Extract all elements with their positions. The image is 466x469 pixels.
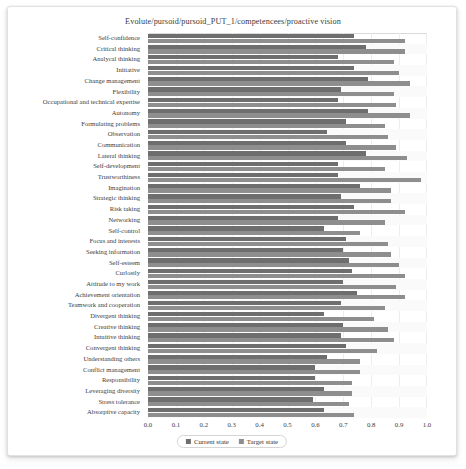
bar-row bbox=[148, 65, 427, 76]
y-axis-label: Convergent thinking bbox=[86, 345, 140, 352]
x-tick-label: 0.6 bbox=[311, 421, 320, 428]
bar-current-state bbox=[148, 109, 368, 113]
bar-target-state bbox=[148, 306, 385, 310]
bar-current-state bbox=[148, 162, 338, 166]
x-tick-label: 0.5 bbox=[283, 421, 292, 428]
y-axis-label: Change management bbox=[85, 78, 140, 85]
bar-target-state bbox=[148, 60, 394, 64]
y-axis-label: Divergent thinking bbox=[90, 313, 140, 320]
bar-target-state bbox=[148, 178, 421, 182]
bar-row bbox=[148, 44, 427, 55]
x-tick-label: 0.8 bbox=[367, 421, 376, 428]
bar-current-state bbox=[148, 66, 354, 70]
legend-item-current-state[interactable]: Current state bbox=[186, 438, 229, 445]
bar-row bbox=[148, 375, 427, 386]
bar-current-state bbox=[148, 141, 346, 145]
bar-row bbox=[148, 76, 427, 87]
bar-current-state bbox=[148, 205, 354, 209]
bar-target-state bbox=[148, 391, 352, 395]
y-axis-label: Attitude to my work bbox=[86, 281, 140, 288]
x-tick-label: 0.2 bbox=[200, 421, 209, 428]
bar-target-state bbox=[148, 327, 388, 331]
bar-current-state bbox=[148, 130, 327, 134]
bar-target-state bbox=[148, 349, 377, 353]
bar-current-state bbox=[148, 55, 338, 59]
x-axis: 0.00.10.20.30.40.50.60.70.80.91.0 bbox=[148, 418, 427, 434]
bar-rows bbox=[148, 33, 427, 418]
bar-target-state bbox=[148, 359, 360, 363]
bar-target-state bbox=[148, 220, 385, 224]
bar-current-state bbox=[148, 397, 313, 401]
bar-target-state bbox=[148, 103, 396, 107]
bar-target-state bbox=[148, 188, 391, 192]
bar-row bbox=[148, 343, 427, 354]
bar-row bbox=[148, 247, 427, 258]
bar-target-state bbox=[148, 145, 396, 149]
bar-current-state bbox=[148, 87, 341, 91]
bar-current-state bbox=[148, 184, 360, 188]
bar-row bbox=[148, 290, 427, 301]
bar-current-state bbox=[148, 45, 366, 49]
chart-title: Evolute/pursoid/pursoid_PUT_1/competence… bbox=[8, 17, 458, 26]
y-axis-label: Formulating problems bbox=[81, 121, 140, 128]
bar-row bbox=[148, 332, 427, 343]
bar-row bbox=[148, 268, 427, 279]
x-tick-label: 0.7 bbox=[339, 421, 348, 428]
bar-target-state bbox=[148, 402, 349, 406]
bar-row bbox=[148, 300, 427, 311]
x-tick-label: 1.0 bbox=[423, 421, 432, 428]
bar-target-state bbox=[148, 370, 360, 374]
x-tick-label: 0.4 bbox=[255, 421, 264, 428]
bar-current-state bbox=[148, 194, 341, 198]
bar-current-state bbox=[148, 376, 315, 380]
bar-current-state bbox=[148, 280, 343, 284]
chart-card: Evolute/pursoid/pursoid_PUT_1/competence… bbox=[7, 6, 457, 456]
bar-current-state bbox=[148, 312, 324, 316]
x-tick-label: 0.1 bbox=[172, 421, 181, 428]
y-axis-label: Risk taking bbox=[110, 206, 140, 213]
x-tick-label: 0.0 bbox=[144, 421, 153, 428]
y-axis-label: Focus and interests bbox=[89, 238, 140, 245]
bar-current-state bbox=[148, 258, 349, 262]
y-axis-label: Networking bbox=[109, 217, 141, 224]
bar-target-state bbox=[148, 135, 388, 139]
bar-row bbox=[148, 365, 427, 376]
y-axis-label: Understanding others bbox=[83, 356, 140, 363]
bar-row bbox=[148, 183, 427, 194]
bar-target-state bbox=[148, 71, 399, 75]
bar-target-state bbox=[148, 156, 407, 160]
bar-target-state bbox=[148, 285, 396, 289]
legend-label-target-state: Target state bbox=[247, 438, 278, 445]
y-axis-label: Creative thinking bbox=[94, 324, 140, 331]
bar-row bbox=[148, 279, 427, 290]
chart-legend[interactable]: Current state Target state bbox=[177, 435, 287, 448]
bar-target-state bbox=[148, 39, 405, 43]
y-axis-label: Occupational and technical expertise bbox=[43, 99, 140, 106]
bar-row bbox=[148, 161, 427, 172]
y-axis-label: Responsibility bbox=[102, 377, 140, 384]
legend-item-target-state[interactable]: Target state bbox=[239, 438, 278, 445]
bar-row bbox=[148, 129, 427, 140]
bar-current-state bbox=[148, 365, 315, 369]
y-axis-label: Initiative bbox=[116, 67, 140, 74]
plot-area bbox=[148, 33, 427, 418]
bar-target-state bbox=[148, 124, 385, 128]
bar-row bbox=[148, 151, 427, 162]
bar-row bbox=[148, 354, 427, 365]
bar-current-state bbox=[148, 387, 324, 391]
legend-swatch-target-icon bbox=[239, 439, 244, 444]
y-axis-label: Flexibility bbox=[113, 89, 140, 96]
bar-target-state bbox=[148, 113, 410, 117]
x-tick-label: 0.3 bbox=[227, 421, 236, 428]
bar-target-state bbox=[148, 49, 405, 53]
bar-target-state bbox=[148, 295, 405, 299]
y-axis-label: Autonomy bbox=[112, 110, 140, 117]
x-tick-label: 0.9 bbox=[395, 421, 404, 428]
y-axis-label: Teamwork and cooperation bbox=[68, 302, 140, 309]
bar-row bbox=[148, 226, 427, 237]
bar-row bbox=[148, 33, 427, 44]
bar-current-state bbox=[148, 173, 338, 177]
bar-current-state bbox=[148, 301, 341, 305]
bar-current-state bbox=[148, 226, 324, 230]
bar-target-state bbox=[148, 231, 360, 235]
